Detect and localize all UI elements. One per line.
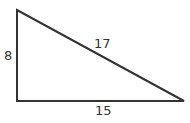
left-side-label: 8 [4, 49, 12, 62]
hypotenuse-label: 17 [94, 37, 111, 50]
right-triangle-shape [17, 10, 184, 101]
bottom-side-label: 15 [95, 104, 112, 117]
